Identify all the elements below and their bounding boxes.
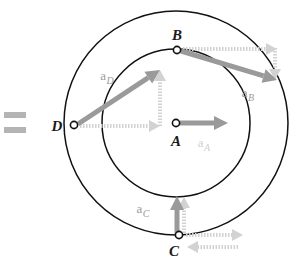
d-vertical-component (154, 70, 166, 126)
vector-aB (181, 51, 277, 83)
vector-label-aD-base: a (100, 68, 106, 83)
vector-label-aB: aB (242, 85, 254, 103)
vector-aA (180, 116, 228, 130)
d-horizontal-component (80, 120, 160, 132)
c-horizontal-component-left (187, 241, 238, 253)
equals-bar-bottom (4, 127, 26, 133)
points-group (70, 46, 182, 238)
vector-label-aB-base: a (242, 85, 248, 100)
equals-sign (4, 112, 26, 133)
vector-label-aA-base: a (198, 135, 204, 150)
c-horizontal-component-right-head (232, 229, 243, 241)
vector-label-aC: aC (137, 201, 150, 219)
point-label-D: D (51, 118, 63, 134)
point-marker-D (70, 121, 77, 128)
vector-label-aB-subscript: B (248, 92, 254, 103)
c-horizontal-component-left-head (187, 241, 198, 253)
vector-label-aC-subscript: C (143, 208, 150, 219)
point-label-B: B (171, 27, 182, 43)
point-label-C: C (169, 243, 180, 259)
point-marker-B (173, 46, 180, 53)
c-horizontal-component-right (186, 229, 243, 241)
vector-aA-head (214, 116, 228, 130)
point-marker-C (175, 231, 182, 238)
vector-label-aC-base: a (137, 201, 143, 216)
vector-label-aA: aA (198, 135, 211, 153)
figure-canvas: aAaBaCaD ABCD (0, 0, 289, 274)
point-labels-group: ABCD (51, 27, 182, 259)
vector-aD (78, 70, 160, 124)
equals-bar-top (4, 112, 26, 118)
vector-label-aA-subscript: A (203, 142, 211, 153)
vector-aB-shaft (181, 51, 264, 76)
vector-label-aD-subscript: D (106, 75, 115, 86)
vector-diagram-svg: aAaBaCaD ABCD (0, 0, 289, 274)
point-label-A: A (170, 133, 181, 149)
vector-label-aD: aD (100, 68, 114, 86)
point-marker-A (172, 119, 179, 126)
